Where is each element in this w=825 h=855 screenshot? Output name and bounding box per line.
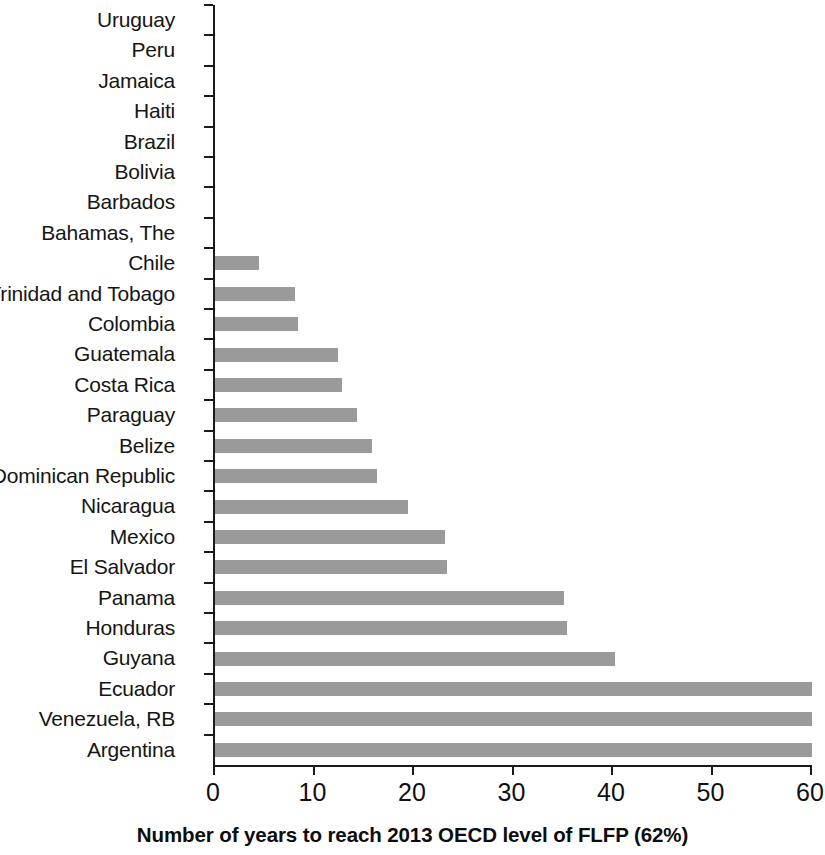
category-label: Argentina <box>87 735 175 765</box>
bar-row: Guyana <box>213 643 810 673</box>
bar-row: Nicaragua <box>213 491 810 521</box>
y-axis-tick <box>204 612 213 614</box>
bar-row: Chile <box>213 248 810 278</box>
x-axis-tick <box>213 765 215 775</box>
y-axis-tick <box>204 65 213 67</box>
y-axis-tick <box>204 186 213 188</box>
x-axis-tick <box>711 765 713 775</box>
y-axis-tick <box>204 582 213 584</box>
bar <box>215 378 342 392</box>
bar <box>215 712 812 726</box>
category-label: Guyana <box>103 643 175 673</box>
bar-row: Argentina <box>213 735 810 765</box>
y-axis-tick <box>204 369 213 371</box>
bar-row: Uruguay <box>213 5 810 35</box>
bar <box>215 500 408 514</box>
bar-row: Trinidad and Tobago <box>213 279 810 309</box>
bar <box>215 287 295 301</box>
plot-area: UruguayPeruJamaicaHaitiBrazilBoliviaBarb… <box>213 5 810 765</box>
category-label: Panama <box>98 583 175 613</box>
y-axis-tick <box>204 95 213 97</box>
bar-row: Jamaica <box>213 66 810 96</box>
category-label: Barbados <box>87 187 175 217</box>
y-axis-tick <box>204 673 213 675</box>
bar-row: Mexico <box>213 522 810 552</box>
category-label: Peru <box>131 35 175 65</box>
bar <box>215 591 564 605</box>
bar-row: Honduras <box>213 613 810 643</box>
y-axis-tick <box>204 126 213 128</box>
x-axis-tick-label: 50 <box>676 778 746 807</box>
bar-row: Bolivia <box>213 157 810 187</box>
bar-row: Colombia <box>213 309 810 339</box>
y-axis-tick <box>204 217 213 219</box>
x-axis-tick <box>313 765 315 775</box>
bar-row: Dominican Republic <box>213 461 810 491</box>
category-label: Bahamas, The <box>41 218 175 248</box>
y-axis-tick <box>204 278 213 280</box>
x-axis-tick <box>810 765 812 775</box>
y-axis-tick <box>204 4 213 6</box>
bar-row: Ecuador <box>213 674 810 704</box>
category-label: Dominican Republic <box>0 461 175 491</box>
category-label: Uruguay <box>97 5 175 35</box>
y-axis-tick <box>204 734 213 736</box>
bar-row: Paraguay <box>213 400 810 430</box>
x-axis-tick <box>512 765 514 775</box>
y-axis-tick <box>204 308 213 310</box>
bar-row: Haiti <box>213 96 810 126</box>
category-label: El Salvador <box>70 552 175 582</box>
bar-row: Barbados <box>213 187 810 217</box>
y-axis-tick <box>204 34 213 36</box>
category-label: Honduras <box>86 613 175 643</box>
x-axis-title: Number of years to reach 2013 OECD level… <box>0 823 825 847</box>
y-axis-tick <box>204 399 213 401</box>
bar <box>215 348 338 362</box>
category-label: Mexico <box>110 522 175 552</box>
bar <box>215 439 372 453</box>
x-axis-tick-label: 0 <box>178 778 248 807</box>
y-axis-tick <box>204 490 213 492</box>
category-label: Costa Rica <box>74 370 175 400</box>
x-axis-tick-label: 10 <box>278 778 348 807</box>
bar <box>215 560 447 574</box>
bar <box>215 408 357 422</box>
y-axis-tick <box>204 551 213 553</box>
x-axis-tick-label: 30 <box>477 778 547 807</box>
bar <box>215 682 812 696</box>
bar <box>215 256 259 270</box>
category-label: Trinidad and Tobago <box>0 279 175 309</box>
bar-row: Venezuela, RB <box>213 704 810 734</box>
bar-row: Costa Rica <box>213 370 810 400</box>
y-axis-tick <box>204 156 213 158</box>
bar-row: Belize <box>213 431 810 461</box>
bar <box>215 621 567 635</box>
bar-row: Brazil <box>213 127 810 157</box>
bar <box>215 317 298 331</box>
bar <box>215 652 615 666</box>
category-label: Bolivia <box>115 157 175 187</box>
y-axis-tick <box>204 703 213 705</box>
category-label: Haiti <box>134 96 175 126</box>
category-label: Ecuador <box>98 674 175 704</box>
bar-row: Peru <box>213 35 810 65</box>
y-axis-tick <box>204 338 213 340</box>
category-label: Colombia <box>88 309 175 339</box>
category-label: Venezuela, RB <box>39 704 175 734</box>
category-label: Jamaica <box>98 66 175 96</box>
category-label: Brazil <box>124 127 175 157</box>
category-label: Guatemala <box>74 339 175 369</box>
x-axis-tick <box>412 765 414 775</box>
bar <box>215 530 445 544</box>
bar-chart-figure: UruguayPeruJamaicaHaitiBrazilBoliviaBarb… <box>0 0 825 855</box>
category-label: Nicaragua <box>81 491 175 521</box>
x-axis-tick <box>611 765 613 775</box>
bar <box>215 743 812 757</box>
y-axis-tick <box>204 521 213 523</box>
category-label: Paraguay <box>87 400 175 430</box>
bar-row: El Salvador <box>213 552 810 582</box>
x-axis-tick-label: 40 <box>576 778 646 807</box>
y-axis-tick <box>204 247 213 249</box>
bar-row: Guatemala <box>213 339 810 369</box>
category-label: Belize <box>119 431 175 461</box>
